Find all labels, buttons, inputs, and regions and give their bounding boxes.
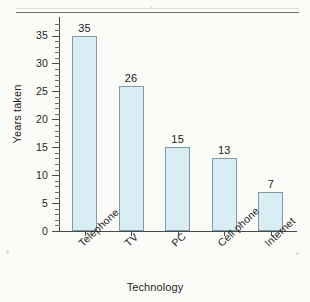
y-tick-minor <box>55 198 60 199</box>
y-tick-minor <box>55 86 60 87</box>
scan-speck <box>150 6 152 8</box>
y-tick-minor <box>55 125 60 126</box>
y-tick-minor <box>55 225 60 226</box>
y-tick-minor <box>55 170 60 171</box>
y-tick-minor <box>55 97 60 98</box>
y-tick-minor <box>55 136 60 137</box>
y-tick-minor <box>55 131 60 132</box>
bar-value-label: 26 <box>111 72 152 84</box>
y-tick-major <box>52 119 60 120</box>
y-tick-major <box>52 231 60 232</box>
bar[interactable] <box>212 158 237 231</box>
x-category-label: TV <box>122 231 140 249</box>
y-tick-minor <box>55 220 60 221</box>
scan-speck <box>6 250 9 254</box>
page-rule <box>16 12 299 13</box>
y-axis-title: Years taken <box>11 69 23 159</box>
y-tick-minor <box>55 181 60 182</box>
bar-value-label: 13 <box>204 144 245 156</box>
bar[interactable] <box>72 36 97 232</box>
y-tick-minor <box>55 108 60 109</box>
y-tick-label: 5 <box>24 198 48 208</box>
y-tick-minor <box>55 47 60 48</box>
bar-value-label: 15 <box>157 133 198 145</box>
y-tick-minor <box>55 58 60 59</box>
y-tick-minor <box>55 158 60 159</box>
y-tick-minor <box>55 52 60 53</box>
y-tick-label: 10 <box>24 170 48 180</box>
y-tick-major <box>52 91 60 92</box>
y-tick-label: 25 <box>24 86 48 96</box>
page-rule-faint <box>16 8 299 9</box>
y-tick-major <box>52 63 60 64</box>
bar[interactable] <box>165 147 190 231</box>
bar-chart-figure: 05101520253035 Years taken 352615137 Tel… <box>0 0 310 302</box>
bar-value-label: 7 <box>250 178 291 190</box>
scan-speck <box>296 252 299 255</box>
bar[interactable] <box>119 86 144 231</box>
y-tick-minor <box>55 142 60 143</box>
y-tick-minor <box>55 69 60 70</box>
y-tick-minor <box>55 209 60 210</box>
y-tick-label: 15 <box>24 142 48 152</box>
y-tick-major <box>52 203 60 204</box>
y-tick-label: 30 <box>24 58 48 68</box>
y-tick-minor <box>55 75 60 76</box>
y-tick-minor <box>55 114 60 115</box>
y-tick-minor <box>55 164 60 165</box>
y-tick-minor <box>55 192 60 193</box>
y-tick-major <box>52 36 60 37</box>
y-tick-label: 20 <box>24 114 48 124</box>
y-tick-minor <box>55 214 60 215</box>
y-tick-minor <box>55 153 60 154</box>
y-tick-minor <box>55 80 60 81</box>
y-tick-minor <box>55 41 60 42</box>
x-axis-title: Technology <box>0 281 310 293</box>
x-category-label: PC <box>169 230 188 249</box>
y-tick-minor <box>55 24 60 25</box>
y-tick-label: 0 <box>24 226 48 236</box>
y-tick-minor <box>55 186 60 187</box>
y-tick-minor <box>55 103 60 104</box>
y-tick-major <box>52 147 60 148</box>
y-tick-minor <box>55 30 60 31</box>
y-tick-label: 35 <box>24 30 48 40</box>
y-tick-major <box>52 175 60 176</box>
bar-value-label: 35 <box>64 22 105 34</box>
